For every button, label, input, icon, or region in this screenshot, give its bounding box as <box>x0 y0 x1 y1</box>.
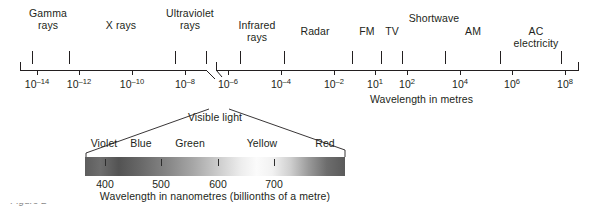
band-divider <box>381 51 382 64</box>
band-label-infrared-rays: Infraredrays <box>239 20 276 43</box>
axis-tick <box>281 70 282 75</box>
color-label-red: Red <box>315 138 335 150</box>
band-label-am: AM <box>465 26 481 38</box>
nm-tick-label: 400 <box>96 178 114 190</box>
nm-tick-label: 700 <box>265 178 283 190</box>
nm-tick-label: 500 <box>152 178 170 190</box>
axis-tick <box>565 70 566 75</box>
nm-tick <box>218 159 219 166</box>
axis-tick-label: 106 <box>504 78 520 90</box>
electromagnetic-spectrum-figure: Gammarays X rays Ultravioletrays Infrare… <box>0 0 593 214</box>
band-divider <box>561 51 562 64</box>
nm-axis-label: Wavelength in nanometres (billionths of … <box>100 191 330 203</box>
band-divider <box>402 51 403 64</box>
band-divider <box>445 51 446 64</box>
figure-caption-fragment: Figure 2 <box>10 203 130 214</box>
axis-line-left <box>20 70 207 71</box>
band-label-ac-electricity: ACelectricity <box>514 26 559 49</box>
color-label-blue: Blue <box>130 138 151 150</box>
color-label-green: Green <box>175 138 205 150</box>
band-divider <box>32 51 33 64</box>
band-label-tv: TV <box>385 26 399 38</box>
band-divider <box>352 51 353 64</box>
axis-tick <box>185 70 186 75</box>
axis-tick-label: 102 <box>399 78 415 90</box>
axis-tick <box>512 70 513 75</box>
axis-endcap-left <box>20 62 21 71</box>
axis-tick <box>460 70 461 75</box>
axis-label-wavelength-metres: Wavelength in metres <box>370 94 473 106</box>
band-divider <box>240 51 241 64</box>
axis-tick-label: 108 <box>557 78 573 90</box>
callout-connector-right <box>228 108 348 158</box>
band-label-radar: Radar <box>300 26 329 38</box>
band-divider <box>206 51 207 64</box>
axis-tick-label: 10–6 <box>218 78 238 90</box>
nm-tick <box>274 159 275 166</box>
color-label-violet: Violet <box>91 138 118 150</box>
axis-tick-label: 101 <box>367 78 383 90</box>
band-label-x-rays: X rays <box>106 20 136 32</box>
axis-tick <box>37 70 38 75</box>
axis-endcap-right <box>578 62 579 71</box>
axis-tick-label: 10–4 <box>271 78 291 90</box>
axis-tick-label: 10–12 <box>67 78 91 90</box>
axis-tick <box>407 70 408 75</box>
visible-light-spectrum-bar <box>85 157 345 176</box>
band-label-ultraviolet-rays: Ultravioletrays <box>166 8 214 31</box>
axis-tick-label: 10–8 <box>175 78 195 90</box>
band-divider <box>69 51 70 64</box>
nm-tick <box>161 159 162 166</box>
axis-tick <box>132 70 133 75</box>
visible-light-title: Visible light <box>188 112 242 124</box>
axis-tick <box>79 70 80 75</box>
axis-tick <box>334 70 335 75</box>
band-divider <box>284 51 285 64</box>
axis-tick <box>228 70 229 75</box>
nm-tick-label: 600 <box>209 178 227 190</box>
axis-tick-label: 10–14 <box>25 78 49 90</box>
axis-tick-label: 10–2 <box>324 78 344 90</box>
band-divider <box>500 51 501 64</box>
band-label-fm: FM <box>359 26 374 38</box>
axis-tick-label: 10–10 <box>120 78 144 90</box>
axis-tick-label: 104 <box>452 78 468 90</box>
band-label-shortwave: Shortwave <box>409 13 460 25</box>
axis-line-right <box>216 70 579 71</box>
band-divider <box>175 51 176 64</box>
band-label-gamma-rays: Gammarays <box>29 8 67 31</box>
axis-tick <box>375 70 376 75</box>
color-label-yellow: Yellow <box>247 138 278 150</box>
nm-tick <box>105 159 106 166</box>
